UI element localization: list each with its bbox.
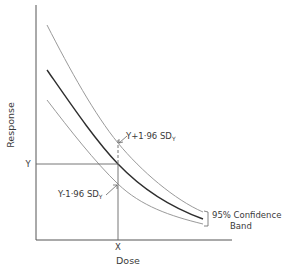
lower-label: Y-1·96 SDY xyxy=(57,189,103,200)
band-bracket xyxy=(204,211,208,226)
dose-response-diagram: Y+1·96 SDY Y-1·96 SDY 95% Confidence Ban… xyxy=(0,0,288,269)
upper-confidence-curve xyxy=(47,25,203,212)
x-axis-title: Dose xyxy=(116,255,140,266)
lower-label-leader xyxy=(106,185,117,195)
band-label-line2: Band xyxy=(230,221,252,231)
y-axis-title: Response xyxy=(5,102,16,148)
lower-confidence-curve xyxy=(47,100,203,224)
upper-label: Y+1·96 SDY xyxy=(125,131,176,142)
band-label-line1: 95% Confidence xyxy=(212,210,281,220)
x-tick-label: X xyxy=(115,242,121,252)
y-tick-label: Y xyxy=(24,159,31,169)
